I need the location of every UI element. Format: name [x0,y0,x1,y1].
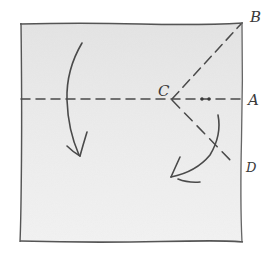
dot-mark [200,97,203,100]
origami-diagram: B A C D [0,0,276,256]
paper-fill [20,23,242,241]
label-c: C [158,82,170,100]
paper-edge-bottom [20,241,243,242]
label-d: D [245,160,257,175]
paper-square [20,22,243,242]
label-b: B [249,8,261,26]
label-a: A [246,91,259,109]
dot-mark [207,97,210,100]
